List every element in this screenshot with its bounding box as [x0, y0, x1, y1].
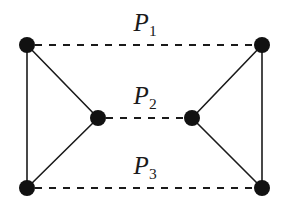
edge-top-left-to-middle-left	[27, 45, 98, 118]
node-middle-right	[184, 110, 200, 126]
node-middle-left	[90, 110, 106, 126]
path-label-p2: P2	[133, 83, 156, 108]
path-label-p3-subscript: 3	[149, 164, 157, 181]
path-label-p1-base: P	[133, 9, 148, 36]
node-bottom-right	[254, 180, 270, 196]
node-top-right	[254, 37, 270, 53]
figure-container: P1 P2 P3	[0, 0, 290, 206]
path-label-p1: P1	[133, 10, 156, 35]
edge-bottom-right-to-middle-right	[192, 118, 262, 188]
node-bottom-left	[19, 180, 35, 196]
path-label-p3: P3	[133, 153, 156, 178]
path-label-p2-subscript: 2	[149, 94, 157, 111]
node-top-left	[19, 37, 35, 53]
path-label-p3-base: P	[133, 152, 148, 179]
edge-bottom-left-to-middle-left	[27, 118, 98, 188]
edge-top-right-to-middle-right	[192, 45, 262, 118]
path-label-p2-base: P	[133, 82, 148, 109]
path-label-p1-subscript: 1	[149, 21, 157, 38]
